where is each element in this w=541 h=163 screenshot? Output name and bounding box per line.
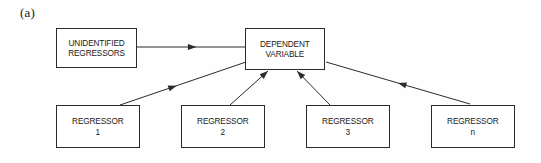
regressor-3-to-dependent-variable bbox=[297, 71, 330, 105]
node-regressor-2: REGRESSOR 2 bbox=[181, 105, 265, 148]
node-regressor-1: REGRESSOR 1 bbox=[56, 105, 140, 148]
node-label-unidentified-regressors: UNIDENTIFIED REGRESSORS bbox=[68, 38, 125, 58]
unidentified-regressors-to-dependent-variable bbox=[137, 44, 245, 50]
node-dependent-variable: DEPENDENT VARIABLE bbox=[245, 28, 325, 70]
node-label-regressor-n: REGRESSOR n bbox=[447, 116, 498, 136]
node-regressor-3: REGRESSOR 3 bbox=[306, 105, 390, 148]
node-label-regressor-1: REGRESSOR 1 bbox=[72, 116, 123, 136]
node-label-regressor-2: REGRESSOR 2 bbox=[197, 116, 248, 136]
arrowhead-icon bbox=[398, 82, 407, 88]
regressor-1-to-dependent-variable bbox=[120, 62, 246, 105]
figure-panel-a: (a) UNIDENTIFIED REGRESSORS DEPENDENT VA… bbox=[0, 0, 541, 163]
node-label-regressor-3: REGRESSOR 3 bbox=[322, 116, 373, 136]
node-unidentified-regressors: UNIDENTIFIED REGRESSORS bbox=[56, 28, 137, 68]
regressor-2-to-dependent-variable bbox=[230, 71, 268, 105]
arrowhead-icon bbox=[168, 85, 177, 91]
node-label-dependent-variable: DEPENDENT VARIABLE bbox=[260, 39, 310, 59]
arrowhead-icon bbox=[188, 44, 197, 50]
regressor-n-to-dependent-variable bbox=[326, 62, 470, 104]
node-regressor-n: REGRESSOR n bbox=[431, 105, 515, 148]
